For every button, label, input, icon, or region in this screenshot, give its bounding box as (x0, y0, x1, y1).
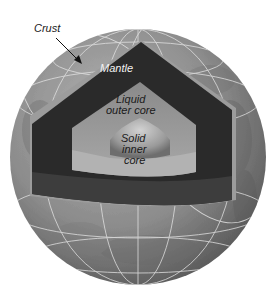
outer-core-label-line2: outer core (106, 104, 156, 116)
crust-label: Crust (34, 22, 60, 34)
mantle-label: Mantle (100, 62, 133, 74)
inner-core-label-line3: core (124, 154, 145, 166)
earth-layers-diagram: Crust Mantle Liquid outer core Solid inn… (0, 0, 277, 299)
